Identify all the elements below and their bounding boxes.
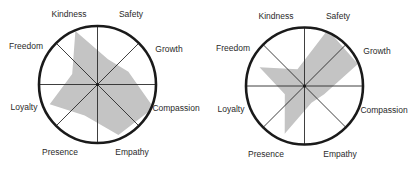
label-loyalty: Loyalty bbox=[11, 102, 38, 112]
radar-chart-right: Kindness Safety Growth Compassion Empath… bbox=[207, 0, 414, 173]
radar-fill-area bbox=[50, 31, 154, 135]
center-dot bbox=[303, 84, 306, 87]
label-freedom: Freedom bbox=[216, 43, 250, 53]
label-empathy: Empathy bbox=[115, 147, 149, 157]
radar-plot-left bbox=[0, 0, 207, 173]
label-compassion: Compassion bbox=[360, 105, 407, 115]
label-compassion: Compassion bbox=[152, 103, 199, 113]
radar-chart-left: Kindness Safety Growth Compassion Empath… bbox=[0, 0, 207, 173]
label-presence: Presence bbox=[248, 149, 284, 159]
label-growth: Growth bbox=[155, 44, 182, 54]
label-kindness: Kindness bbox=[259, 11, 294, 21]
label-loyalty: Loyalty bbox=[218, 104, 245, 114]
label-presence: Presence bbox=[42, 147, 78, 157]
label-freedom: Freedom bbox=[9, 41, 43, 51]
label-empathy: Empathy bbox=[323, 149, 357, 159]
label-kindness: Kindness bbox=[52, 9, 87, 19]
center-dot bbox=[96, 83, 99, 86]
label-safety: Safety bbox=[326, 11, 350, 21]
radar-plot-right bbox=[207, 0, 415, 173]
label-safety: Safety bbox=[119, 9, 143, 19]
label-growth: Growth bbox=[363, 46, 390, 56]
